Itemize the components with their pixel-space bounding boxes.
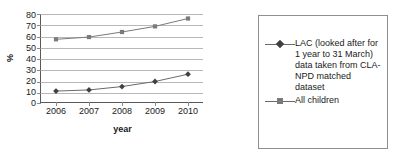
y-tick-label: 40: [12, 55, 36, 64]
data-point: [185, 71, 191, 77]
y-tick-label: 30: [12, 66, 36, 75]
data-point: [54, 37, 58, 41]
chart-figure: % 80 70 60 50 40 30 20 10 0: [0, 0, 396, 155]
data-point: [86, 87, 92, 93]
data-point: [119, 84, 125, 90]
data-point: [53, 88, 59, 94]
x-axis-title: year: [60, 124, 185, 134]
square-marker-icon: [265, 97, 295, 107]
legend-label: LAC (looked after for 1 year to 31 March…: [295, 38, 383, 93]
data-point: [120, 30, 124, 34]
y-axis-tick-labels: 80 70 60 50 40 30 20 10 0: [10, 0, 36, 110]
y-tick-label: 10: [12, 88, 36, 97]
y-tick-label: 50: [12, 44, 36, 53]
y-tick-label: 0: [12, 99, 36, 108]
legend-label: All children: [295, 95, 383, 106]
y-tick-label: 60: [12, 33, 36, 42]
data-point: [152, 79, 158, 85]
y-tick-label: 70: [12, 22, 36, 31]
x-tick-label: 2010: [168, 106, 208, 116]
legend-item-all-children[interactable]: All children: [265, 95, 383, 107]
data-point: [87, 35, 91, 39]
data-series-layer: [40, 14, 203, 104]
y-tick-label: 80: [12, 11, 36, 20]
chart-legend: LAC (looked after for 1 year to 31 March…: [258, 15, 388, 149]
data-point: [153, 24, 157, 28]
chart-title-clipped: [96, 0, 256, 4]
legend-item-lac[interactable]: LAC (looked after for 1 year to 31 March…: [265, 38, 383, 93]
y-tick-label: 20: [12, 77, 36, 86]
data-point: [186, 16, 190, 20]
series-line-all-children: [56, 19, 188, 40]
plot-area: % 80 70 60 50 40 30 20 10 0: [0, 0, 240, 155]
diamond-marker-icon: [265, 40, 295, 50]
